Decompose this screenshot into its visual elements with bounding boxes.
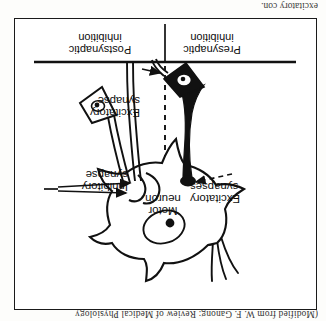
label-inhibitory-synapse: Inhibitory synapse — [42, 169, 128, 193]
label-postsynaptic-inhibition: Postsynaptic inhibition — [40, 32, 160, 56]
figure-frame: Motor neuron Inhibitory synapse Excitato… — [14, 18, 317, 310]
figure-caption-top: (Modified from W. F. Ganong: Review of M… — [8, 309, 318, 319]
label-excitatory-synapses: Excitatory synapses — [190, 181, 278, 205]
page-rotator: (Modified from W. F. Ganong: Review of M… — [0, 0, 326, 321]
label-presynaptic-inhibition: Presynaptic inhibition — [152, 32, 272, 56]
figure-caption-bottom: excitatory con. — [8, 1, 318, 12]
label-motor-neuron: Motor neuron — [128, 193, 198, 217]
label-excitatory-synapse: Excitatory synapse — [56, 95, 140, 119]
neuron-diagram-svg — [16, 20, 316, 309]
nucleolus — [166, 219, 175, 228]
